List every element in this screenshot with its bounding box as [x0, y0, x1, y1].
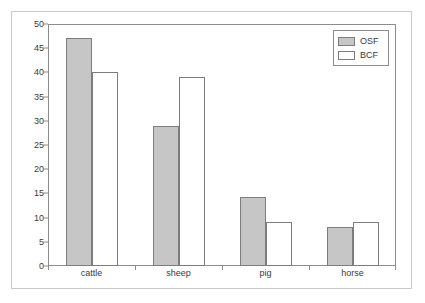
- x-axis-label-sheep: sheep: [166, 269, 191, 278]
- bar-cattle-bcf: [92, 72, 118, 266]
- x-axis-label-cattle: cattle: [81, 269, 103, 278]
- legend-item-osf: OSF: [338, 34, 384, 48]
- bar-sheep-osf: [153, 126, 179, 266]
- x-axis-tick-mark: [222, 266, 223, 270]
- x-axis-label-horse: horse: [341, 269, 364, 278]
- x-axis: cattlesheeppighorse: [48, 266, 396, 286]
- legend: OSF BCF: [333, 30, 389, 66]
- legend-swatch-osf-icon: [338, 37, 355, 46]
- x-axis-tick-mark: [395, 266, 396, 270]
- bar-sheep-bcf: [179, 77, 205, 266]
- x-axis-label-pig: pig: [259, 269, 271, 278]
- y-axis: 05101520253035404550: [0, 0, 44, 303]
- x-axis-tick-mark: [48, 266, 49, 270]
- legend-item-bcf: BCF: [338, 48, 384, 62]
- legend-swatch-bcf-icon: [338, 51, 355, 60]
- bar-horse-osf: [327, 227, 353, 266]
- bar-horse-bcf: [353, 222, 379, 266]
- x-axis-tick-mark: [135, 266, 136, 270]
- legend-label-osf: OSF: [360, 37, 379, 46]
- legend-label-bcf: BCF: [360, 51, 378, 60]
- bar-pig-bcf: [266, 222, 292, 266]
- bar-pig-osf: [240, 197, 266, 266]
- bar-cattle-osf: [66, 38, 92, 266]
- bar-chart-figure: 05101520253035404550 cattlesheeppighorse…: [0, 0, 425, 303]
- x-axis-tick-mark: [309, 266, 310, 270]
